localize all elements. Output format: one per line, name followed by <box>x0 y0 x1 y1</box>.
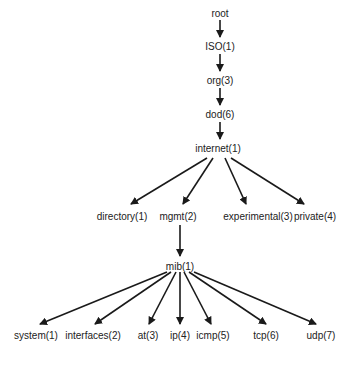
node-icmp: icmp(5) <box>196 330 229 342</box>
arrow-edge <box>40 272 167 324</box>
node-system: system(1) <box>14 330 58 342</box>
node-iso: ISO(1) <box>205 41 234 53</box>
node-ip: ip(4) <box>170 330 190 342</box>
node-internet: internet(1) <box>195 143 241 155</box>
tree-edges <box>0 0 351 365</box>
arrow-edge <box>95 272 171 324</box>
node-private: private(4) <box>294 211 336 223</box>
node-org: org(3) <box>207 75 234 87</box>
node-tcp: tcp(6) <box>253 330 279 342</box>
arrow-edge <box>184 272 211 324</box>
node-dod: dod(6) <box>206 109 235 121</box>
arrow-edge <box>183 158 213 204</box>
node-interfaces: interfaces(2) <box>65 330 121 342</box>
node-mib: mib(1) <box>166 261 194 273</box>
node-experimental: experimental(3) <box>223 211 292 223</box>
arrow-edge <box>149 272 176 324</box>
arrow-edge <box>131 158 207 204</box>
node-root: root <box>211 8 228 20</box>
node-at: at(3) <box>138 330 159 342</box>
node-udp: udp(7) <box>307 330 336 342</box>
node-mgmt: mgmt(2) <box>159 211 196 223</box>
node-directory: directory(1) <box>97 211 148 223</box>
arrow-edge <box>231 158 304 204</box>
